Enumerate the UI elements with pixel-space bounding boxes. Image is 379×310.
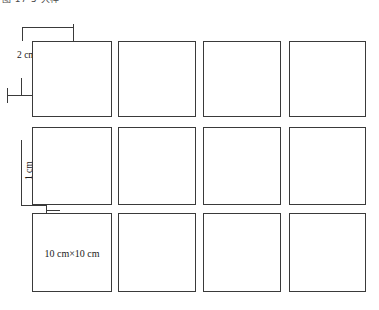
tile-row2-col4[interactable] (289, 127, 366, 205)
tile-row1-col3[interactable] (203, 41, 281, 117)
gap-dim-tick-left (7, 88, 8, 103)
tile-grid: 10 cm×10 cm (32, 41, 366, 292)
tile-row2-col3[interactable] (203, 127, 281, 205)
top-dim-tick-right (73, 24, 74, 41)
tile-row1-col4[interactable] (289, 41, 366, 117)
tile-row2-col2[interactable] (118, 127, 196, 205)
figure-caption: 图 17-5 大样 (2, 0, 122, 8)
tile-row1-col1[interactable] (32, 41, 112, 117)
tile-row3-col1[interactable]: 10 cm×10 cm (32, 213, 112, 292)
tile-row2-col1[interactable] (32, 127, 112, 205)
left-dim-extension-line (21, 140, 22, 206)
top-dim-extension-line (22, 27, 74, 28)
tile-row3-col4[interactable] (289, 213, 366, 292)
tile-row3-col2[interactable] (118, 213, 196, 292)
top-dim-tick-left (22, 27, 23, 41)
tile-row1-col2[interactable] (118, 41, 196, 117)
tile-size-label: 10 cm×10 cm (33, 247, 111, 258)
tile-layout-diagram: 图 17-5 大样 2 cm 1 cm (0, 0, 379, 310)
figure-caption-text: 图 17-5 大样 (2, 0, 122, 5)
gap-dim-tick-upper (21, 78, 22, 96)
tile-row3-col3[interactable] (203, 213, 281, 292)
